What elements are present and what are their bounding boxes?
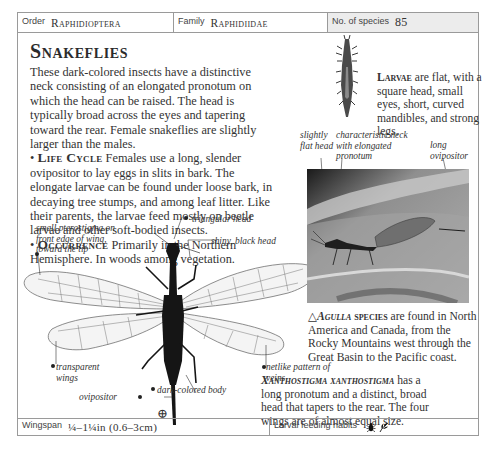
right-forewing xyxy=(178,264,315,309)
larvae-heading: Larvae xyxy=(377,71,412,84)
annotation-pterostigma: small pterostigma on front edge of wing,… xyxy=(36,223,126,255)
annotation-dark-body: dark-colored body xyxy=(157,385,226,396)
right-hindwing xyxy=(180,313,284,355)
annotation-neck: characteristic neck with elongated prono… xyxy=(336,130,412,162)
thorax xyxy=(162,295,184,315)
annotation-dot xyxy=(138,395,142,399)
wingspan-cell: Wingspan ¼–1¼in (0.6–3cm) xyxy=(18,419,269,435)
feeding-habits-cell: Larval feeding habits xyxy=(269,419,478,435)
annotation-dot xyxy=(51,364,55,368)
annotation-long-ovipositor: long ovipositor xyxy=(430,140,476,161)
agulla-species-label: species xyxy=(354,310,387,323)
annotation-flat-head: slightly flat head xyxy=(300,130,340,151)
annotation-transparent-wings: transparent wings xyxy=(56,362,116,383)
page-title: Snakeflies xyxy=(30,40,128,63)
specs-footer: Wingspan ¼–1¼in (0.6–3cm) Larval feeding… xyxy=(18,418,478,435)
bullet: • xyxy=(30,151,34,165)
larvae-description: Larvae are flat, with a square head, sma… xyxy=(377,71,483,139)
xanthostigma-name: Xanthostigma xanthostigma xyxy=(261,374,394,387)
annotation-triangular-head: triangular head xyxy=(192,214,251,225)
annotation-dot xyxy=(184,216,188,220)
annotation-dot xyxy=(151,387,155,391)
annotation-dot xyxy=(262,365,266,369)
left-forewing xyxy=(24,272,168,309)
order-value: Raphidioptera xyxy=(51,17,121,29)
feeding-habits-label: Larval feeding habits xyxy=(274,420,357,430)
field-guide-page: Order Raphidioptera Family Raphidiidae N… xyxy=(17,12,479,436)
larva-illustration xyxy=(336,35,358,117)
order-cell: Order Raphidioptera xyxy=(18,13,173,32)
wingspan-label: Wingspan xyxy=(22,420,62,430)
wingspan-value: ¼–1¼in (0.6–3cm) xyxy=(68,421,157,433)
photo-image xyxy=(307,169,469,303)
life-cycle-heading: Life Cycle xyxy=(37,150,102,165)
annotation-ovipositor: ovipositor xyxy=(79,392,117,403)
family-label: Family xyxy=(178,16,205,26)
left-hindwing xyxy=(48,313,168,350)
agulla-genus: Agulla xyxy=(317,310,351,323)
family-cell: Family Raphidiidae xyxy=(173,13,327,32)
agulla-caption: △Agulla species are found in North Ameri… xyxy=(308,310,480,364)
family-value: Raphidiidae xyxy=(211,17,268,29)
abdomen xyxy=(162,315,184,385)
plant-icon xyxy=(379,422,389,432)
annotation-dot xyxy=(35,252,39,256)
intro-paragraph: These dark-colored insects have a distin… xyxy=(30,65,274,151)
agulla-photo xyxy=(307,169,469,303)
species-count-cell: No. of species 85 xyxy=(327,13,478,32)
triangle-symbol: △ xyxy=(308,310,317,323)
bullet: • xyxy=(30,238,34,252)
beetle-icon xyxy=(366,422,376,432)
annotation-shiny-head: shiny, black head xyxy=(211,236,276,247)
species-count-value: 85 xyxy=(395,15,408,30)
species-count-label: No. of species xyxy=(332,16,389,26)
taxonomy-header: Order Raphidioptera Family Raphidiidae N… xyxy=(18,13,478,33)
order-label: Order xyxy=(22,16,45,26)
